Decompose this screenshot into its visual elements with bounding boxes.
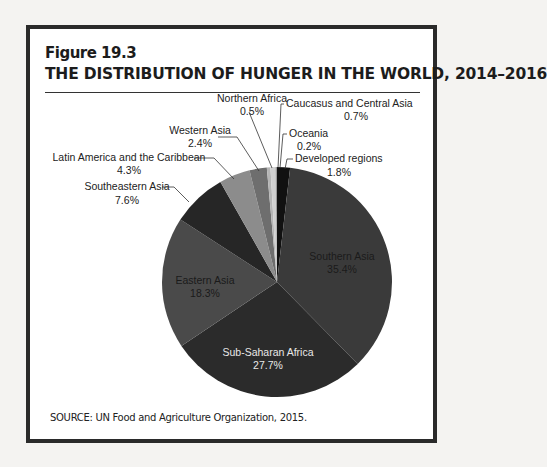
label-northern-africa-name: Northern Africa [217,92,287,104]
label-sub-saharan-name: Sub-Saharan Africa [222,346,313,358]
label-southeastern-asia-name: Southeastern Asia [84,180,169,192]
source-note: SOURCE: UN Food and Agriculture Organiza… [50,412,307,423]
label-northern-africa-pct: 0.5% [240,105,264,117]
label-sub-saharan-pct: 27.7% [253,359,283,371]
pie-chart: Northern Africa 0.5% Caucasus and Centra… [30,29,433,439]
label-southern-asia-name: Southern Asia [309,250,375,262]
label-caucasus-pct: 0.7% [344,110,368,122]
label-developed-name: Developed regions [295,152,383,164]
label-western-asia-name: Western Asia [169,124,231,136]
leader-western-asia [218,137,259,171]
label-latin-america-pct: 4.3% [117,164,141,176]
label-latin-america-name: Latin America and the Caribbean [53,151,206,163]
leader-northern-africa [249,112,272,168]
label-western-asia-pct: 2.4% [188,137,212,149]
figure-frame: Figure 19.3 THE DISTRIBUTION OF HUNGER I… [26,25,437,443]
label-oceania-name: Oceania [289,127,328,139]
label-southeastern-asia-pct: 7.6% [115,194,139,206]
label-caucasus-name: Caucasus and Central Asia [286,97,413,109]
label-oceania-pct: 0.2% [297,140,321,152]
label-eastern-asia-pct: 18.3% [190,287,220,299]
label-southern-asia-pct: 35.4% [327,263,357,275]
label-developed-pct: 1.8% [327,166,351,178]
label-eastern-asia-name: Eastern Asia [176,274,235,286]
